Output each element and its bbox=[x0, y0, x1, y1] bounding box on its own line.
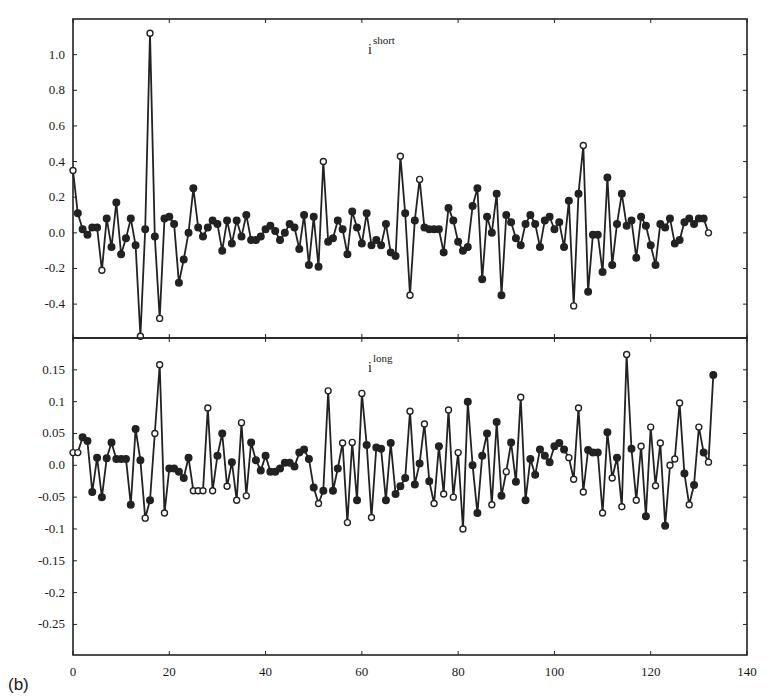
data-point bbox=[450, 217, 457, 224]
data-point bbox=[75, 450, 81, 456]
data-point bbox=[378, 445, 385, 452]
data-point bbox=[84, 438, 91, 445]
data-point bbox=[445, 205, 452, 212]
data-point bbox=[522, 221, 529, 228]
data-point bbox=[503, 212, 510, 219]
data-point bbox=[103, 215, 110, 222]
data-point bbox=[436, 226, 443, 233]
data-point bbox=[344, 251, 351, 258]
data-point bbox=[493, 419, 500, 426]
data-point bbox=[628, 217, 635, 224]
data-point bbox=[363, 442, 370, 449]
data-point bbox=[710, 372, 717, 379]
data-point bbox=[412, 481, 419, 488]
data-point bbox=[609, 262, 616, 269]
data-point bbox=[103, 455, 110, 462]
data-point bbox=[508, 439, 515, 446]
data-point bbox=[700, 449, 707, 456]
series-label-long: ilong bbox=[368, 352, 393, 375]
data-point bbox=[161, 510, 167, 516]
y-tick-label: -0.1 bbox=[44, 521, 65, 536]
data-point bbox=[359, 240, 366, 247]
data-point bbox=[301, 212, 308, 219]
data-point bbox=[310, 214, 317, 221]
data-point bbox=[205, 405, 211, 411]
data-point bbox=[330, 235, 337, 242]
data-point bbox=[157, 362, 163, 368]
data-point bbox=[561, 446, 568, 453]
data-point bbox=[469, 462, 476, 469]
y-tick-label: 0.2 bbox=[49, 189, 65, 204]
data-point bbox=[383, 497, 390, 504]
data-point bbox=[233, 217, 240, 224]
data-point bbox=[479, 452, 486, 459]
data-point bbox=[705, 459, 711, 465]
data-point bbox=[691, 482, 698, 489]
data-point bbox=[378, 242, 385, 249]
data-point bbox=[397, 153, 403, 159]
data-point bbox=[234, 497, 240, 503]
data-point bbox=[657, 440, 663, 446]
panel-long: 0.150.10.050.0-0.05-0.1-0.15-0.2-0.25ilo… bbox=[38, 338, 747, 655]
data-point bbox=[604, 174, 611, 181]
series-label-short: ishort bbox=[368, 34, 395, 57]
data-point bbox=[421, 421, 427, 427]
data-point bbox=[633, 497, 639, 503]
data-point bbox=[527, 456, 534, 463]
data-point bbox=[205, 224, 212, 231]
data-point bbox=[513, 479, 520, 486]
data-point bbox=[397, 483, 404, 490]
data-point bbox=[681, 470, 688, 477]
x-tick-label: 120 bbox=[641, 664, 661, 679]
data-point bbox=[123, 235, 130, 242]
data-point bbox=[604, 429, 611, 436]
data-point bbox=[508, 219, 515, 226]
data-point bbox=[200, 233, 207, 240]
data-point bbox=[407, 408, 413, 414]
data-point bbox=[638, 443, 644, 449]
x-tick-label: 40 bbox=[259, 664, 272, 679]
data-point bbox=[431, 501, 437, 507]
x-tick-label: 140 bbox=[737, 664, 757, 679]
data-point bbox=[272, 228, 279, 235]
x-axis: 020406080100120140 bbox=[70, 664, 757, 679]
data-point bbox=[330, 487, 337, 494]
data-point bbox=[277, 465, 284, 472]
data-point bbox=[316, 501, 322, 507]
data-point bbox=[672, 456, 678, 462]
data-point bbox=[190, 185, 197, 192]
data-point bbox=[648, 424, 654, 430]
data-point bbox=[417, 176, 423, 182]
data-point bbox=[662, 522, 669, 529]
data-point bbox=[185, 454, 192, 461]
data-point bbox=[662, 224, 669, 231]
data-point bbox=[132, 426, 139, 433]
data-point bbox=[532, 472, 539, 479]
data-point bbox=[368, 515, 374, 521]
data-point bbox=[498, 493, 505, 500]
data-point bbox=[185, 230, 192, 237]
series-line-short bbox=[73, 33, 709, 336]
data-point bbox=[566, 455, 572, 461]
data-point bbox=[157, 315, 163, 321]
data-point bbox=[700, 215, 707, 222]
data-point bbox=[152, 233, 159, 240]
data-point bbox=[392, 253, 399, 260]
y-tick-label: 0.0 bbox=[49, 225, 65, 240]
data-point bbox=[243, 212, 250, 219]
data-point bbox=[489, 230, 496, 237]
data-point bbox=[599, 269, 606, 276]
data-point bbox=[455, 450, 461, 456]
data-point bbox=[469, 203, 476, 210]
data-point bbox=[354, 224, 361, 231]
data-point bbox=[152, 430, 158, 436]
data-point bbox=[614, 221, 621, 228]
data-point bbox=[498, 292, 505, 299]
data-point bbox=[619, 190, 626, 197]
data-point bbox=[493, 190, 500, 197]
data-point bbox=[340, 440, 346, 446]
data-point bbox=[619, 504, 625, 510]
data-point bbox=[580, 489, 586, 495]
data-point bbox=[363, 210, 370, 217]
plot-frame-long bbox=[73, 338, 747, 655]
